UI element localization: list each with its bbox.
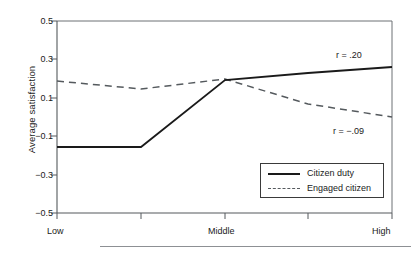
y-tick-label-4: −0.3 (27, 171, 53, 180)
legend-item-engaged-citizen: Engaged citizen (261, 181, 385, 196)
bottom-divider (100, 246, 411, 247)
y-tick-label-3: −0.1 (27, 132, 53, 141)
legend-item-citizen-duty: Citizen duty (261, 166, 385, 181)
y-tick-label-5: −0.5 (27, 209, 53, 218)
y-tick-label-1: 0.3 (27, 55, 53, 64)
x-tick-label-low: Low (47, 227, 64, 236)
series-line-engaged-citizen (57, 79, 392, 117)
legend-label-citizen-duty: Citizen duty (307, 168, 354, 179)
y-tick-label-2: 0.1 (27, 94, 53, 103)
y-tick-label-0: 0.5 (27, 17, 53, 26)
annotation-r-engaged-citizen: r = −.09 (333, 127, 364, 136)
chart-legend: Citizen duty Engaged citizen (260, 163, 384, 198)
x-axis-ticks (57, 213, 392, 219)
annotation-r-citizen-duty: r = .20 (336, 51, 362, 60)
legend-swatch-dashed-line-icon (268, 188, 300, 189)
y-axis-tick-labels: 0.5 0.3 0.1 −0.1 −0.3 −0.5 (24, 0, 53, 253)
x-tick-label-high: High (372, 227, 391, 236)
legend-label-engaged-citizen: Engaged citizen (307, 183, 371, 194)
legend-swatch-solid-line-icon (268, 173, 300, 175)
x-tick-label-middle: Middle (208, 227, 235, 236)
chart-figure: Average satisfaction 0.5 0.3 0.1 −0.1 −0… (0, 0, 411, 253)
